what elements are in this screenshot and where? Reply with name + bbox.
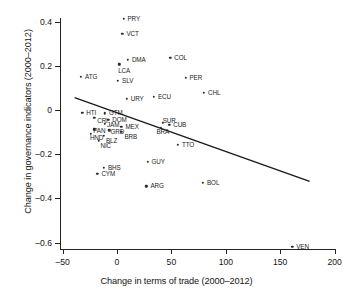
scatter-plot-figure: Change in governance indicators (2000–20…	[0, 0, 353, 296]
trend-line	[0, 0, 353, 296]
